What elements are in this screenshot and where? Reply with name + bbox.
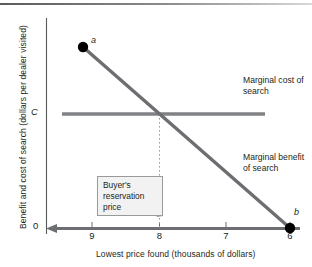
x-tick-label-6: 6	[280, 230, 300, 241]
reservation-price-callout-label: Buyer's reservation price	[103, 180, 161, 213]
point-b-label: b	[294, 207, 299, 218]
x-axis-title: Lowest price found (thousands of dollars…	[96, 249, 256, 259]
chart-plot-area	[0, 0, 312, 267]
x-axis-arrowhead-icon	[46, 224, 57, 233]
marginal-cost-annotation: Marginal cost of search	[243, 75, 307, 97]
y-axis-title: Benefit and cost of search (dollars per …	[18, 20, 28, 234]
y-axis-c-label: C	[31, 106, 38, 117]
x-tick-label-9: 9	[82, 230, 102, 241]
x-tick-label-7: 7	[216, 230, 236, 241]
x-tick-label-8: 8	[150, 230, 170, 241]
y-axis-origin-label: 0	[33, 220, 38, 231]
point-a-label: a	[91, 35, 96, 46]
marginal-benefit-annotation: Marginal benefit of search	[243, 152, 307, 174]
point-a-marker	[78, 42, 88, 52]
figure-container: Benefit and cost of search (dollars per …	[0, 0, 312, 267]
reservation-price-callout: Buyer's reservation price	[97, 176, 163, 216]
